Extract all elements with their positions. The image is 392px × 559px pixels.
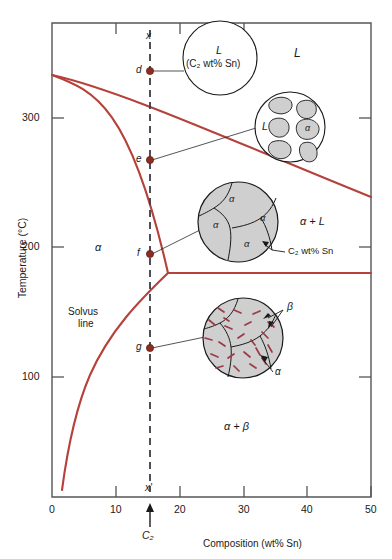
alpha-particle [269,118,289,137]
phase-diagram-figure: 300 200 100 Temperature (°C) 0 10 20 30 … [0,0,392,559]
inset-alpha-grain-label: α [244,238,249,249]
marker-d [146,67,153,74]
phase-diagram-svg [0,0,392,559]
inset-alpha-circle [198,182,278,262]
inset-liquid-composition: (C₂ wt% Sn) [186,58,240,69]
c2-axis-arrow [146,503,154,527]
ytick-label-300: 300 [22,111,40,123]
region-label-liquid: L [294,46,301,60]
xtick-label-50: 50 [365,503,377,515]
inset-alpha-beta-alpha-label: α [275,366,281,377]
cooling-path-top-label: x [146,30,151,41]
point-label-g: g [136,341,142,352]
inset-alpha-grain-label: α [260,212,265,223]
region-label-alpha: α [95,241,101,253]
inset-liquid-alpha-alpha-label: α [305,123,310,133]
point-label-d: d [136,64,142,75]
c2-axis-label: C₂ [142,529,154,541]
point-label-e: e [136,153,142,164]
inset-liquid-label: L [216,44,222,56]
xtick-label-10: 10 [110,503,122,515]
alpha-particle [269,97,292,114]
y-axis-title: Temperature (°C) [16,198,28,318]
region-label-alpha-plus-beta: α + β [224,420,249,432]
inset-alpha-grain-label: α [213,219,218,230]
inset-alpha-plus-beta [203,298,283,378]
alpha-particle [297,100,317,118]
cooling-path-bottom-label: x' [145,482,152,493]
marker-e [146,156,153,163]
solvus-label-line1: Solvus [68,306,98,317]
c2-arrowhead [146,503,154,512]
solvus-label-line2: line [78,318,94,329]
xtick-label-20: 20 [174,503,186,515]
alpha-particle [299,142,317,162]
point-label-f: f [137,247,140,258]
inset-liquid-alpha-L-label: L [262,120,268,132]
inset-alpha-grain-label: α [229,193,234,204]
region-label-alpha-plus-liquid: α + L [300,215,325,227]
xtick-label-40: 40 [301,503,313,515]
marker-g [146,344,153,351]
inset-alpha-grains [198,182,278,262]
marker-f [146,250,153,257]
xtick-label-30: 30 [238,503,250,515]
x-axis-title: Composition (wt% Sn) [203,538,302,549]
inset-alpha-callout-label: C₂ wt% Sn [288,245,333,256]
ytick-label-100: 100 [22,370,40,382]
xtick-label-0: 0 [49,503,55,515]
inset-beta-label: β [287,300,293,312]
